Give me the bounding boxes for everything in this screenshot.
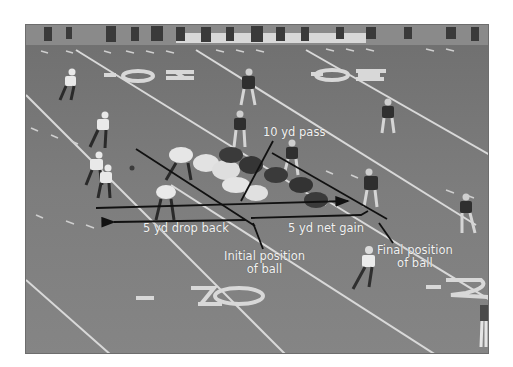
- football-photo: 10 yd pass 5 yd drop back 5 yd net gain …: [25, 24, 489, 354]
- field-scene: [26, 25, 489, 354]
- drop-back-label: 5 yd drop back: [143, 222, 229, 235]
- pass-label: 10 yd pass: [263, 126, 325, 139]
- final-position-label: Final position of ball: [377, 244, 453, 270]
- final-position-line2: of ball: [377, 257, 453, 270]
- net-gain-label: 5 yd net gain: [288, 222, 364, 235]
- initial-position-label: Initial position of ball: [224, 250, 305, 276]
- football: [130, 166, 135, 171]
- initial-position-line2: of ball: [224, 263, 305, 276]
